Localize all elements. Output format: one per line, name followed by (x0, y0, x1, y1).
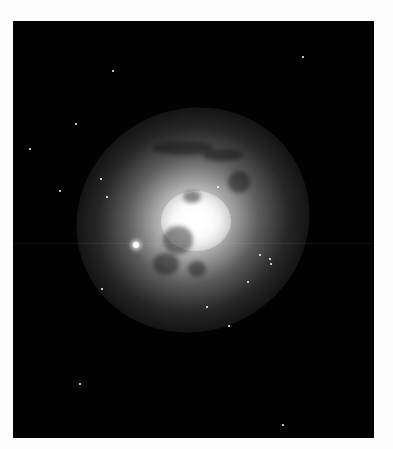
star (106, 196, 108, 198)
star (112, 70, 114, 72)
star (247, 281, 249, 283)
star (79, 383, 81, 385)
star (259, 254, 261, 256)
dust-lane (203, 149, 243, 161)
star (75, 123, 77, 125)
star (133, 242, 139, 248)
dust-lane (153, 253, 179, 275)
galaxy-image (13, 21, 374, 438)
star (206, 306, 208, 308)
dust-lane (183, 191, 201, 203)
dust-lane (228, 171, 250, 193)
scan-artifact (13, 243, 374, 244)
star (228, 325, 230, 327)
star (100, 178, 102, 180)
star (270, 263, 272, 265)
star (101, 288, 103, 290)
dust-lane (188, 261, 206, 277)
dust-lane (163, 226, 193, 254)
star (302, 56, 304, 58)
star (269, 258, 271, 260)
star (217, 186, 219, 188)
star (59, 190, 61, 192)
star (282, 424, 284, 426)
star (29, 148, 31, 150)
page (0, 0, 393, 449)
